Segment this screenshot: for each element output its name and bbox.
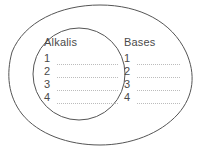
outer-set-content: Bases 1 2 3 4 (124, 36, 196, 104)
outer-set-entry-list: 1 2 3 4 (124, 52, 196, 104)
outer-set-label: Bases (124, 36, 196, 49)
entry-blank-rule[interactable] (137, 68, 180, 78)
entry-blank-rule[interactable] (57, 55, 118, 65)
entry-number: 3 (124, 78, 135, 91)
entry-number: 4 (44, 91, 55, 104)
entry-blank-rule[interactable] (57, 81, 118, 91)
list-item[interactable]: 4 (124, 91, 196, 104)
list-item[interactable]: 3 (124, 78, 196, 91)
venn-diagram: Alkalis 1 2 3 4 Bases 1 (0, 0, 201, 152)
list-item[interactable]: 2 (124, 65, 196, 78)
entry-number: 2 (124, 65, 135, 78)
inner-set-content: Alkalis 1 2 3 4 (44, 36, 122, 104)
entry-number: 2 (44, 65, 55, 78)
list-item[interactable]: 3 (44, 78, 122, 91)
entry-number: 4 (124, 91, 135, 104)
entry-blank-rule[interactable] (57, 94, 118, 104)
inner-set-entry-list: 1 2 3 4 (44, 52, 122, 104)
entry-blank-rule[interactable] (57, 68, 118, 78)
entry-number: 1 (44, 52, 55, 65)
list-item[interactable]: 1 (124, 52, 196, 65)
entry-number: 1 (124, 52, 135, 65)
list-item[interactable]: 2 (44, 65, 122, 78)
list-item[interactable]: 1 (44, 52, 122, 65)
entry-blank-rule[interactable] (137, 94, 180, 104)
list-item[interactable]: 4 (44, 91, 122, 104)
entry-blank-rule[interactable] (137, 81, 180, 91)
entry-blank-rule[interactable] (137, 55, 180, 65)
inner-set-label: Alkalis (44, 36, 122, 49)
entry-number: 3 (44, 78, 55, 91)
